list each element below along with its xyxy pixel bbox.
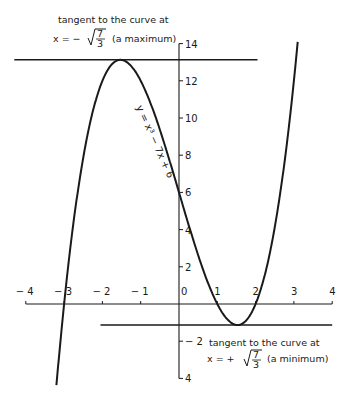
- min-annotation-suffix: (a minimum): [267, 353, 328, 364]
- x-tick-label: − 1: [131, 286, 149, 297]
- x-tick-label: − 3: [54, 286, 72, 297]
- tick-marks: − 4− 3− 2− 1012341412108642− 24: [16, 39, 336, 385]
- min-annotation-line1: tangent to the curve at: [209, 337, 320, 348]
- cubic-graph: − 4− 3− 2− 1012341412108642− 24 y = x³ −…: [0, 0, 346, 400]
- y-tick-label: 10: [185, 113, 198, 124]
- sqrt-7-over-3-max: 7 3: [88, 28, 106, 49]
- x-tick-label: 1: [214, 286, 220, 297]
- max-annotation-prefix: x = −: [53, 33, 81, 44]
- curve-line: [56, 42, 297, 385]
- y-tick-label: − 2: [185, 336, 203, 347]
- max-annotation-line1: tangent to the curve at: [58, 14, 169, 25]
- sqrt-7-over-3-min: 7 3: [244, 349, 262, 370]
- svg-text:3: 3: [97, 38, 103, 49]
- min-annotation-prefix: x = +: [207, 353, 235, 364]
- x-tick-label: − 2: [92, 286, 110, 297]
- y-tick-label: 12: [185, 76, 198, 87]
- y-tick-label: 14: [185, 39, 198, 50]
- axes: [26, 44, 332, 379]
- y-tick-label: 4: [185, 373, 191, 384]
- y-tick-label: 2: [185, 262, 191, 273]
- x-tick-label: 3: [291, 286, 297, 297]
- y-tick-label: 8: [185, 150, 191, 161]
- x-tick-label: 0: [181, 286, 187, 297]
- max-annotation-suffix: (a maximum): [112, 33, 176, 44]
- y-tick-label: 6: [185, 187, 191, 198]
- svg-text:3: 3: [253, 359, 259, 370]
- x-tick-label: 4: [329, 286, 335, 297]
- x-tick-label: − 4: [16, 286, 34, 297]
